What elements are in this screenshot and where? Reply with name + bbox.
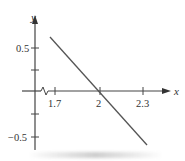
y-axis-label: y: [30, 11, 36, 23]
x-tick-label-2.3: 2.3: [136, 98, 149, 109]
bottom-shadow: [28, 152, 163, 158]
y-tick-label-0.5: 0.5: [16, 43, 29, 54]
chart: y x 0.5 −0.5 1.7 2 2.3: [0, 0, 185, 161]
y-tick-label-neg-0.5: −0.5: [8, 132, 27, 143]
chart-svg: y x 0.5 −0.5 1.7 2 2.3: [0, 0, 185, 161]
x-axis-arrow-icon: [162, 88, 171, 94]
x-tick-label-1.7: 1.7: [48, 98, 61, 109]
x-axis-label: x: [173, 85, 179, 97]
axis-break-icon: [41, 87, 48, 95]
y-axis: [31, 15, 39, 150]
x-tick-label-2: 2: [96, 98, 101, 109]
